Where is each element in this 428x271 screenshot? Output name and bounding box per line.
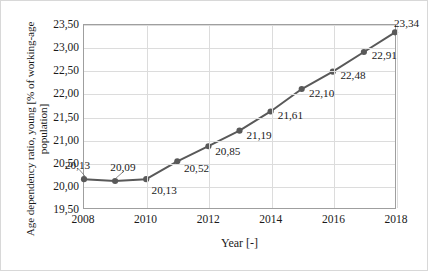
data-point-label: 21,19 [247, 129, 272, 141]
data-point-label: 22,91 [372, 49, 397, 61]
y-axis-tick-labels: 19,5020,0020,5021,0021,5022,0022,5023,00… [31, 24, 79, 209]
gridline-vertical [272, 25, 273, 208]
gridline-horizontal [84, 118, 395, 119]
data-point-label: 20,52 [184, 162, 209, 174]
y-tick-label: 23,00 [33, 41, 79, 53]
gridline-vertical [209, 25, 210, 208]
data-point-marker [112, 178, 118, 184]
gridline-horizontal [84, 141, 395, 142]
data-point-marker [236, 128, 242, 134]
data-point-label: 21,61 [278, 109, 303, 121]
x-tick-label: 2014 [241, 213, 301, 225]
data-point-marker [299, 86, 305, 92]
x-axis-tick-labels: 200820102012201420162018 [83, 213, 396, 231]
x-tick-label: 2018 [366, 213, 426, 225]
y-tick-label: 21,50 [33, 111, 79, 123]
data-point-label: 20,13 [65, 159, 90, 171]
y-tick-label: 23,50 [33, 18, 79, 30]
gridline-vertical [334, 25, 335, 208]
x-tick-label: 2016 [303, 213, 363, 225]
data-point-label: 22,10 [309, 87, 334, 99]
plot-area: 20,1320,0920,1320,5220,8521,1921,6122,10… [83, 24, 396, 209]
series-line [84, 32, 395, 181]
data-point-label: 20,13 [152, 184, 177, 196]
data-point-label: 23,34 [394, 17, 419, 29]
gridline-horizontal [84, 25, 395, 26]
data-point-label: 22,48 [340, 69, 365, 81]
gridline-horizontal [84, 187, 395, 188]
y-tick-label: 22,00 [33, 87, 79, 99]
x-tick-label: 2010 [116, 213, 176, 225]
gridline-vertical [397, 25, 398, 208]
x-tick-label: 2008 [53, 213, 113, 225]
gridline-vertical [147, 25, 148, 208]
data-point-marker [81, 176, 87, 182]
chart-figure: Age dependency ratio, young [% of workin… [0, 0, 428, 271]
gridline-horizontal [84, 48, 395, 49]
x-tick-label: 2012 [178, 213, 238, 225]
y-tick-label: 22,50 [33, 64, 79, 76]
gridline-horizontal [84, 94, 395, 95]
data-point-label: 20,85 [215, 145, 240, 157]
y-tick-label: 20,00 [33, 180, 79, 192]
y-tick-label: 21,00 [33, 134, 79, 146]
x-axis-title: Year [-] [83, 236, 396, 251]
data-point-marker [361, 49, 367, 55]
data-point-label: 20,09 [110, 161, 135, 173]
series-line-chart [84, 25, 395, 208]
